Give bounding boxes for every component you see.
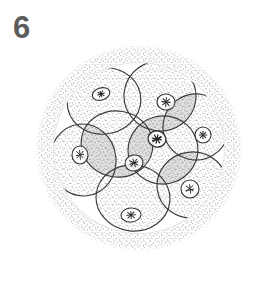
chromatin-star-3 [199,131,207,139]
nucleus-6 [72,146,88,164]
morula-diagram [0,0,272,288]
nucleus-3 [195,127,211,143]
chromatin-star-5 [126,211,135,219]
nucleus-4 [181,180,199,198]
illustration-plate: 6 [0,0,272,288]
